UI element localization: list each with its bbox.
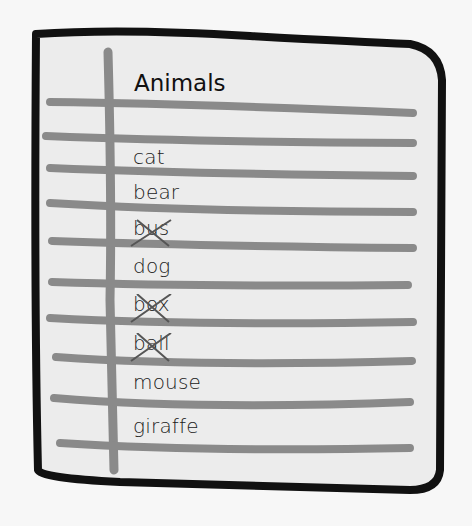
- rule-line: [52, 282, 408, 286]
- list-item: bear: [133, 180, 179, 204]
- list-item-crossed: ball: [133, 331, 170, 355]
- cross-out-icon: [129, 333, 173, 363]
- list-title: Animals: [134, 70, 226, 96]
- list-item: cat: [133, 145, 165, 169]
- cross-out-icon: [129, 218, 173, 248]
- list-item: dog: [133, 254, 171, 278]
- list-item: giraffe: [133, 414, 199, 438]
- paper-sheet: [0, 0, 472, 526]
- cross-out-icon: [129, 294, 173, 324]
- list-item: mouse: [133, 370, 201, 394]
- margin-line: [108, 52, 114, 470]
- list-item-crossed: bus: [133, 216, 169, 240]
- list-item-crossed: box: [133, 292, 170, 316]
